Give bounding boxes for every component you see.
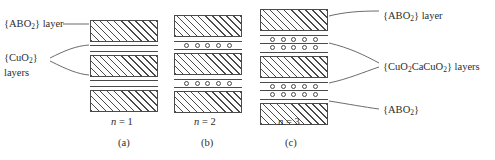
label-line-2: layers (4, 67, 38, 79)
leader-left-cuo-lower (50, 61, 89, 75)
cuo-circle (270, 37, 275, 42)
cuo-circle (291, 92, 296, 97)
cuo-circle (291, 45, 296, 50)
circle-row (174, 41, 242, 50)
n-value: = 3 (283, 116, 299, 127)
cuo-circle (281, 37, 286, 42)
cuo-circle (302, 37, 307, 42)
leader-right-mid-upper (329, 43, 379, 63)
cuo-gap (90, 80, 158, 87)
leader-right-abo (329, 101, 379, 109)
abo-block (260, 9, 328, 31)
circle-row (260, 82, 328, 91)
cuo-circle (195, 81, 200, 86)
panel-b-n-label: n = 2 (194, 116, 216, 127)
cuo-circle (184, 43, 189, 48)
cuo-gap (260, 81, 328, 100)
panel-a-stack (90, 20, 158, 112)
label-text: } layer (35, 18, 64, 29)
panel-a-caption: (a) (118, 137, 130, 148)
label-text: {ABO (4, 18, 31, 29)
label-line-1: {CuO2} (4, 52, 38, 67)
label-right-cuo-cacuo-layers: {CuO2CaCuO2} layers (383, 61, 480, 76)
cuo-circle (270, 45, 275, 50)
cuo-circle (302, 92, 307, 97)
cuo-circle (216, 81, 221, 86)
cuo-circle (313, 37, 318, 42)
label-text: {CuO (383, 61, 408, 72)
circle-row (260, 44, 328, 53)
cuo-circle (313, 92, 318, 97)
cuo-circle (184, 81, 189, 86)
cuo-circle (216, 43, 221, 48)
n-value: = 1 (116, 116, 132, 127)
cuo-gap (90, 45, 158, 52)
cuo-circle (291, 37, 296, 42)
cuo-circle (302, 45, 307, 50)
abo-block (174, 53, 242, 75)
abo-block (90, 20, 158, 42)
n-value: = 2 (199, 116, 215, 127)
cuo-circle (205, 81, 210, 86)
panel-b-stack (174, 15, 242, 113)
label-text: } layer (414, 10, 443, 21)
panel-c-n-label: n = 3 (278, 116, 300, 127)
cuo-circle (313, 45, 318, 50)
abo-block (174, 15, 242, 37)
cuo-gap (174, 78, 242, 88)
label-text: {ABO (383, 10, 410, 21)
label-right-abo: {ABO2} (383, 104, 419, 119)
abo-block (90, 55, 158, 77)
label-text: } (33, 52, 38, 63)
cuo-circle (205, 43, 210, 48)
panel-a-n-label: n = 1 (111, 116, 133, 127)
layer-structure-figure: {ABO2} layer {CuO2} layers {ABO2} layer … (0, 0, 495, 160)
leader-left-cuo-upper (50, 45, 89, 58)
cuo-circle (302, 84, 307, 89)
label-text: } layers (447, 61, 480, 72)
leader-right-mid-lower (329, 67, 379, 83)
cuo-circle (195, 43, 200, 48)
panel-c-caption: (c) (285, 137, 297, 148)
cuo-circle (281, 84, 286, 89)
label-text: CaCuO (412, 61, 444, 72)
label-text: } (414, 104, 419, 115)
label-left-abo-layer: {ABO2} layer (4, 18, 64, 33)
abo-block (260, 56, 328, 78)
cuo-circle (313, 84, 318, 89)
label-text: {CuO (4, 52, 29, 63)
leader-right-abo-layer (329, 11, 379, 16)
label-text: {ABO (383, 104, 410, 115)
circle-row (174, 79, 242, 88)
cuo-gap (174, 40, 242, 50)
cuo-circle (227, 43, 232, 48)
cuo-gap (260, 34, 328, 53)
cuo-circle (270, 84, 275, 89)
cuo-circle (291, 84, 296, 89)
abo-block (174, 91, 242, 113)
abo-block (90, 90, 158, 112)
label-left-cuo-layers: {CuO2} layers (4, 52, 38, 79)
cuo-circle (270, 92, 275, 97)
circle-row (260, 91, 328, 100)
label-right-abo-layer: {ABO2} layer (383, 10, 443, 25)
panel-b-caption: (b) (201, 137, 213, 148)
circle-row (260, 35, 328, 44)
cuo-circle (281, 92, 286, 97)
cuo-circle (227, 81, 232, 86)
cuo-circle (281, 45, 286, 50)
panel-c-stack (260, 9, 328, 125)
